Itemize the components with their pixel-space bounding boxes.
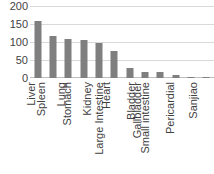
bar-chart: 200 150 100 50 0 LiverSpleenLungStomachK… <box>0 0 214 174</box>
bar[interactable] <box>126 68 133 78</box>
bar-slot <box>183 6 198 78</box>
x-axis-tick-label: Small intestine <box>140 82 151 154</box>
x-axis: LiverSpleenLungStomachKidneyHeartLarge I… <box>30 80 214 174</box>
bar-slot <box>76 6 91 78</box>
bar-slot <box>122 6 137 78</box>
bar-slot <box>45 6 60 78</box>
bar-series <box>30 6 214 78</box>
x-axis-tick-label: Large Intestine <box>93 82 104 155</box>
bar[interactable] <box>203 77 210 78</box>
x-axis-tick-label: Pericardial <box>165 82 176 134</box>
bar[interactable] <box>49 36 56 78</box>
bar-slot <box>107 6 122 78</box>
y-axis-tick-label: 100 <box>0 37 28 48</box>
bar[interactable] <box>172 75 179 78</box>
bar-slot <box>199 6 214 78</box>
bar[interactable] <box>80 40 87 78</box>
x-axis-tick-label: Kidney <box>82 82 93 116</box>
y-axis-tick-label: 50 <box>0 55 28 66</box>
y-axis-tick-label: 200 <box>0 1 28 12</box>
bar[interactable] <box>187 77 194 78</box>
plot-area <box>30 6 214 78</box>
bar-slot <box>61 6 76 78</box>
bar[interactable] <box>157 72 164 78</box>
x-axis-label-slot: Heart <box>107 80 122 174</box>
y-axis-tick-label: 150 <box>0 19 28 30</box>
x-axis-label-slot: Sanjiao <box>199 80 214 174</box>
bar[interactable] <box>141 72 148 78</box>
bar[interactable] <box>111 51 118 78</box>
bar[interactable] <box>34 21 41 78</box>
bar[interactable] <box>65 39 72 78</box>
bar-slot <box>91 6 106 78</box>
x-axis-tick-label: Stomach <box>62 82 73 125</box>
bar-slot <box>153 6 168 78</box>
y-axis-tick-label: 0 <box>0 73 28 84</box>
bar-slot <box>30 6 45 78</box>
bar-slot <box>137 6 152 78</box>
x-axis-tick-label: Spleen <box>36 82 47 116</box>
bar-slot <box>168 6 183 78</box>
x-axis-tick-label: Sanjiao <box>188 82 199 119</box>
bar[interactable] <box>95 43 102 78</box>
